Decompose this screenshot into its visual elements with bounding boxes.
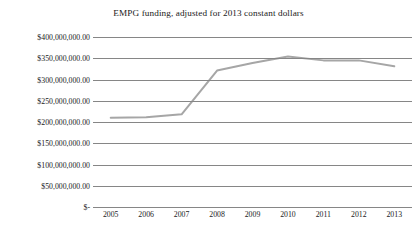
x-axis-tick-label: 2005 [103, 210, 119, 219]
gridline [93, 37, 412, 38]
x-axis-labels: 200520062007200820092010201120122013 [93, 210, 412, 230]
gridline [93, 58, 412, 59]
gridline [93, 101, 412, 102]
gridline [93, 122, 412, 123]
x-axis-tick-label: 2013 [386, 210, 402, 219]
y-axis-tick-label: $300,000,000.00 [2, 75, 90, 84]
x-axis-tick-label: 2012 [351, 210, 367, 219]
x-axis-tick-label: 2008 [209, 210, 225, 219]
y-axis-tick-label: $350,000,000.00 [2, 54, 90, 63]
x-axis-tick-label: 2006 [138, 210, 154, 219]
y-axis-tick-label: $200,000,000.00 [2, 118, 90, 127]
chart-title: EMPG funding, adjusted for 2013 constant… [0, 8, 417, 18]
x-axis-tick-label: 2011 [316, 210, 331, 219]
x-axis-tick-label: 2010 [280, 210, 296, 219]
y-axis-labels: $400,000,000.00$350,000,000.00$300,000,0… [0, 37, 90, 207]
gridline [93, 186, 412, 187]
x-axis-tick-label: 2007 [174, 210, 190, 219]
y-axis-tick-label: $150,000,000.00 [2, 139, 90, 148]
y-axis-tick-label: $400,000,000.00 [2, 33, 90, 42]
y-axis-tick-label: $- [2, 203, 90, 212]
y-axis-tick-label: $50,000,000.00 [2, 181, 90, 190]
plot-area [93, 37, 412, 207]
series-polyline [111, 57, 395, 118]
gridline [93, 143, 412, 144]
chart-container: EMPG funding, adjusted for 2013 constant… [0, 0, 417, 239]
gridline [93, 165, 412, 166]
y-axis-tick-label: $100,000,000.00 [2, 160, 90, 169]
x-axis-tick-label: 2009 [245, 210, 261, 219]
y-axis-tick-label: $250,000,000.00 [2, 96, 90, 105]
gridline [93, 207, 412, 208]
gridline [93, 80, 412, 81]
